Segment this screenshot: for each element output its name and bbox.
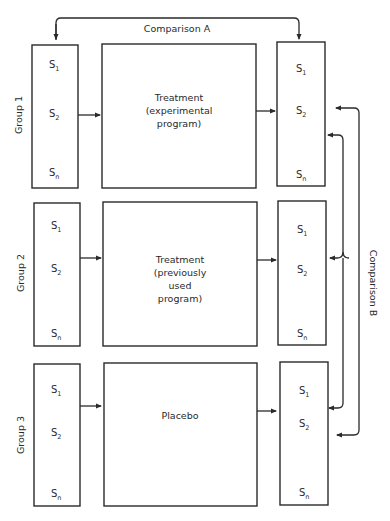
subject-sn: Sn [51, 328, 61, 342]
treatment-line: Treatment [154, 92, 204, 103]
subject-s2: S2 [296, 105, 307, 119]
group-1-treatment-box [102, 44, 256, 188]
treatment-line: Treatment [155, 254, 205, 265]
subject-sn: Sn [49, 167, 59, 181]
subject-sn: Sn [297, 328, 307, 342]
subject-s1: S1 [299, 385, 310, 399]
comparison-a-connector: Comparison A [56, 18, 299, 40]
group-2-row: Group 2 S1 S2 Sn Treatment (previously u… [15, 201, 326, 346]
subject-s2: S2 [51, 263, 62, 277]
subject-s2: S2 [49, 108, 60, 122]
subject-s2: S2 [51, 427, 62, 441]
subject-s2: S2 [297, 264, 308, 278]
subject-s2: S2 [299, 418, 310, 432]
experimental-design-diagram: Comparison A Group 1 S1 S2 Sn Treatment … [0, 0, 390, 521]
subject-sn: Sn [299, 487, 309, 501]
comparison-b-connector: Comparison B [328, 108, 379, 435]
group-3-label: Group 3 [15, 416, 26, 454]
treatment-line: program) [158, 293, 202, 304]
group-2-label: Group 2 [15, 254, 26, 292]
subject-s1: S1 [51, 220, 62, 234]
subject-sn: Sn [51, 488, 61, 502]
group-1-row: Group 1 S1 S2 Sn Treatment (experimental… [13, 42, 325, 188]
group-1-label: Group 1 [13, 96, 24, 134]
subject-s1: S1 [297, 224, 308, 238]
subject-s1: S1 [51, 384, 62, 398]
group-3-row: Group 3 S1 S2 Sn Placebo S1 S2 Sn [15, 362, 328, 506]
treatment-line: Placebo [161, 410, 198, 421]
treatment-line: program) [157, 118, 201, 129]
group-3-placebo-box [104, 363, 257, 506]
comparison-a-label: Comparison A [144, 23, 211, 34]
comparison-b-label: Comparison B [368, 250, 379, 316]
treatment-line: (experimental [146, 105, 213, 116]
subject-s1: S1 [49, 59, 60, 73]
subject-sn: Sn [296, 169, 306, 183]
treatment-line: (previously [154, 267, 207, 278]
subject-s1: S1 [296, 63, 307, 77]
group-3-post-subjects-box [280, 362, 328, 505]
treatment-line: used [169, 280, 192, 291]
